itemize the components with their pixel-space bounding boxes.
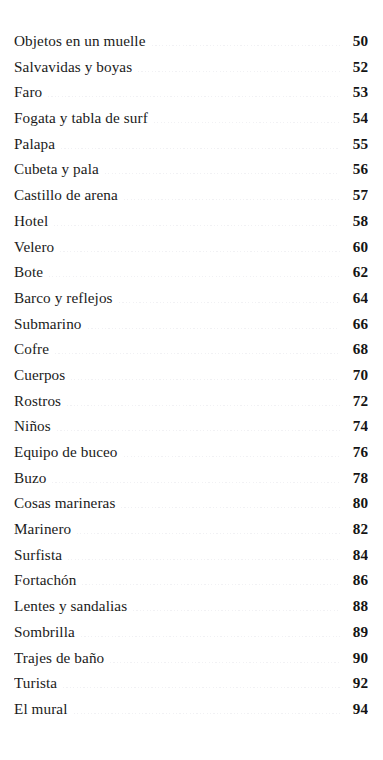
toc-leader-dots [63,687,340,688]
toc-entry[interactable]: Cosas marineras80 [14,490,368,516]
toc-entry-title: Rostros [14,388,65,414]
toc-entry-page-number: 76 [342,439,368,465]
toc-leader-dots [154,122,340,123]
toc-leader-dots [119,302,340,303]
toc-entry-page-number: 84 [342,542,368,568]
toc-entry-title: Cubeta y pala [14,156,103,182]
toc-entry[interactable]: Velero60 [14,234,368,260]
toc-leader-dots [52,482,340,483]
toc-entry[interactable]: El mural94 [14,696,368,722]
toc-entry-title: Fortachón [14,567,80,593]
toc-entry-page-number: 80 [342,490,368,516]
toc-entry-page-number: 60 [342,234,368,260]
toc-entry-title: Cosas marineras [14,490,119,516]
toc-leader-dots [54,225,340,226]
toc-entry[interactable]: Lentes y sandalias88 [14,593,368,619]
toc-entry-title: Velero [14,234,58,260]
toc-entry[interactable]: Sombrilla89 [14,619,368,645]
toc-entry[interactable]: Submarino66 [14,311,368,337]
toc-entry[interactable]: Salvavidas y boyas52 [14,54,368,80]
toc-entry-page-number: 57 [342,182,368,208]
toc-leader-dots [110,662,340,663]
toc-entry[interactable]: Marinero82 [14,516,368,542]
toc-entry-page-number: 78 [342,465,368,491]
toc-leader-dots [124,456,340,457]
toc-entry-title: Trajes de baño [14,645,108,671]
toc-entry[interactable]: Castillo de arena57 [14,182,368,208]
toc-entry-title: Marinero [14,516,75,542]
toc-entry[interactable]: Palapa55 [14,131,368,157]
toc-entry-title: Hotel [14,208,52,234]
toc-leader-dots [61,148,340,149]
toc-entry-title: Objetos en un muelle [14,28,150,54]
toc-entry-page-number: 70 [342,362,368,388]
toc-leader-dots [138,71,340,72]
toc-entry-page-number: 54 [342,105,368,131]
toc-entry-page-number: 74 [342,413,368,439]
toc-leader-dots [55,353,340,354]
toc-list: Objetos en un muelle50Salvavidas y boyas… [14,28,368,722]
toc-leader-dots [48,96,340,97]
toc-entry-title: Cofre [14,336,53,362]
toc-entry[interactable]: Surfista84 [14,542,368,568]
toc-entry-title: Buzo [14,465,50,491]
toc-entry-title: Palapa [14,131,59,157]
toc-entry-title: Sombrilla [14,619,79,645]
toc-leader-dots [60,251,340,252]
toc-entry-page-number: 64 [342,285,368,311]
toc-entry[interactable]: Cofre68 [14,336,368,362]
toc-entry[interactable]: Cubeta y pala56 [14,156,368,182]
toc-entry-title: Cuerpos [14,362,69,388]
toc-entry[interactable]: Trajes de baño90 [14,645,368,671]
toc-entry-page-number: 58 [342,208,368,234]
toc-entry-title: Barco y reflejos [14,285,117,311]
toc-entry[interactable]: Hotel58 [14,208,368,234]
toc-entry-page-number: 86 [342,567,368,593]
toc-leader-dots [152,45,341,46]
toc-entry[interactable]: Bote62 [14,259,368,285]
toc-entry[interactable]: Objetos en un muelle50 [14,28,368,54]
toc-leader-dots [124,199,340,200]
toc-entry[interactable]: Niños74 [14,413,368,439]
toc-entry[interactable]: Turista92 [14,670,368,696]
toc-entry[interactable]: Buzo78 [14,465,368,491]
toc-leader-dots [68,559,340,560]
toc-entry-title: Salvavidas y boyas [14,54,136,80]
toc-entry-title: Bote [14,259,47,285]
toc-leader-dots [57,430,340,431]
toc-leader-dots [71,379,340,380]
toc-entry-title: Fogata y tabla de surf [14,105,152,131]
toc-entry-title: Faro [14,79,46,105]
toc-entry-page-number: 94 [342,696,368,722]
toc-leader-dots [81,636,340,637]
toc-entry[interactable]: Fogata y tabla de surf54 [14,105,368,131]
toc-entry-page-number: 53 [342,79,368,105]
toc-entry-title: El mural [14,696,72,722]
toc-entry[interactable]: Barco y reflejos64 [14,285,368,311]
toc-entry-title: Submarino [14,311,86,337]
toc-entry-page-number: 90 [342,645,368,671]
toc-entry-page-number: 56 [342,156,368,182]
toc-leader-dots [49,276,340,277]
toc-entry-page-number: 52 [342,54,368,80]
toc-entry-title: Equipo de buceo [14,439,122,465]
toc-entry-page-number: 50 [342,28,368,54]
toc-leader-dots [133,610,340,611]
toc-entry-page-number: 66 [342,311,368,337]
toc-entry-title: Castillo de arena [14,182,122,208]
toc-entry[interactable]: Fortachón86 [14,567,368,593]
toc-entry-page-number: 72 [342,388,368,414]
toc-entry-page-number: 62 [342,259,368,285]
toc-entry[interactable]: Faro53 [14,79,368,105]
toc-leader-dots [82,584,340,585]
toc-entry-title: Surfista [14,542,66,568]
toc-leader-dots [88,328,340,329]
toc-leader-dots [74,713,340,714]
toc-entry-title: Niños [14,413,55,439]
toc-entry-page-number: 82 [342,516,368,542]
toc-entry-page-number: 55 [342,131,368,157]
toc-entry[interactable]: Equipo de buceo76 [14,439,368,465]
toc-leader-dots [121,507,340,508]
toc-entry[interactable]: Rostros72 [14,388,368,414]
toc-entry[interactable]: Cuerpos70 [14,362,368,388]
